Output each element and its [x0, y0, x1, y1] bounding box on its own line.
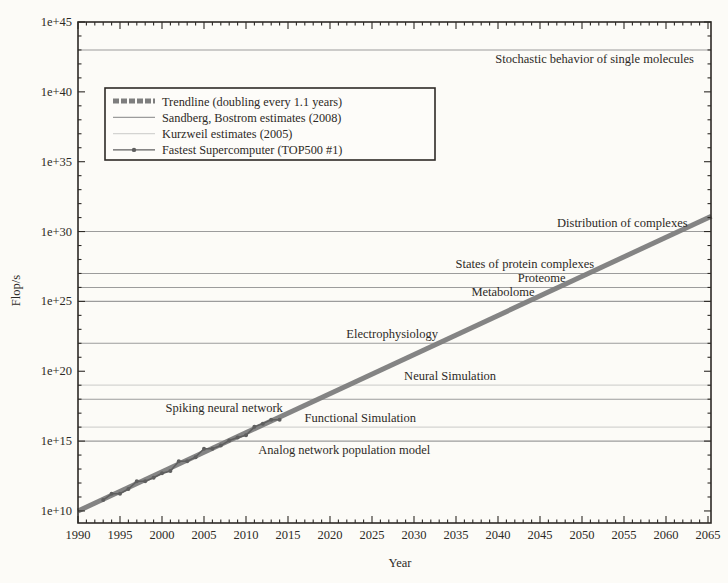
- annotation-states-of-protein-complexes: States of protein complexes: [456, 257, 595, 271]
- supercomputer-point: [143, 479, 147, 483]
- x-tick-label-2065: 2065: [696, 528, 721, 542]
- trendline: [78, 216, 711, 511]
- x-axis-title: Year: [355, 556, 445, 571]
- annotation-spiking-neural-network: Spiking neural network: [165, 401, 283, 415]
- annotation-neural-simulation: Neural Simulation: [404, 369, 497, 383]
- y-tick-labels: 1e+101e+151e+201e+251e+301e+351e+401e+45: [41, 15, 72, 518]
- supercomputer-point: [219, 444, 223, 448]
- x-tick-labels: 1990199520002005201020152020202520302035…: [66, 528, 721, 542]
- x-tick-label-2005: 2005: [192, 528, 217, 542]
- legend-label-sandberg-bostrom-estimates-2008: Sandberg, Bostrom estimates (2008): [162, 111, 341, 125]
- x-tick-label-2020: 2020: [318, 528, 343, 542]
- x-tick-label-2060: 2060: [654, 528, 679, 542]
- x-tick-label-1990: 1990: [66, 528, 91, 542]
- supercomputer-point: [252, 425, 256, 429]
- x-tick-label-2040: 2040: [486, 528, 511, 542]
- supercomputer-point: [227, 439, 231, 443]
- annotation-distribution-of-complexes: Distribution of complexes: [557, 216, 688, 230]
- x-tick-label-2015: 2015: [276, 528, 301, 542]
- x-tick-label-2055: 2055: [612, 528, 637, 542]
- y-tick-label-1e10: 1e+10: [41, 504, 72, 518]
- supercomputer-point: [185, 459, 189, 463]
- x-tick-label-1995: 1995: [108, 528, 133, 542]
- y-tick-label-1e35: 1e+35: [41, 155, 72, 169]
- supercomputer-point: [101, 498, 105, 502]
- x-tick-label-2035: 2035: [444, 528, 469, 542]
- annotation-electrophysiology: Electrophysiology: [346, 327, 438, 341]
- x-tick-label-2045: 2045: [528, 528, 553, 542]
- legend: Trendline (doubling every 1.1 years)Sand…: [105, 88, 435, 160]
- supercomputer-point: [135, 479, 139, 483]
- flops-projection-chart: 1990199520002005201020152020202520302035…: [0, 0, 728, 583]
- legend-label-fastest-supercomputer-top500-1: Fastest Supercomputer (TOP500 #1): [162, 143, 342, 157]
- y-tick-label-1e25: 1e+25: [41, 294, 72, 308]
- supercomputer-point: [261, 422, 265, 426]
- annotation-metabolome: Metabolome: [471, 285, 535, 299]
- legend-label-trendline-doubling-every-1-1-years: Trendline (doubling every 1.1 years): [162, 95, 342, 109]
- supercomputer-point: [110, 492, 114, 496]
- supercomputer-point: [168, 469, 172, 473]
- supercomputer-point: [244, 433, 248, 437]
- supercomputer-point: [118, 492, 122, 496]
- x-tick-label-2010: 2010: [234, 528, 259, 542]
- supercomputer-point: [152, 476, 156, 480]
- supercomputer-point: [126, 487, 130, 491]
- x-tick-label-2030: 2030: [402, 528, 427, 542]
- scanned-figure-page: 1990199520002005201020152020202520302035…: [0, 0, 728, 583]
- x-tick-label-2025: 2025: [360, 528, 385, 542]
- supercomputer-point: [236, 436, 240, 440]
- y-tick-label-1e45: 1e+45: [41, 15, 72, 29]
- x-tick-label-2000: 2000: [150, 528, 175, 542]
- y-tick-label-1e20: 1e+20: [41, 364, 72, 378]
- legend-label-kurzweil-estimates-2005: Kurzweil estimates (2005): [162, 127, 292, 141]
- y-axis-title: Flop/s: [9, 261, 24, 321]
- y-tick-label-1e40: 1e+40: [41, 85, 72, 99]
- supercomputer-point: [177, 459, 181, 463]
- supercomputer-point: [194, 455, 198, 459]
- annotation-proteome: Proteome: [518, 271, 566, 285]
- supercomputer-point: [210, 447, 214, 451]
- x-tick-label-2050: 2050: [570, 528, 595, 542]
- supercomputer-point: [278, 418, 282, 422]
- y-tick-label-1e15: 1e+15: [41, 434, 72, 448]
- y-tick-label-1e30: 1e+30: [41, 225, 72, 239]
- supercomputer-point: [160, 471, 164, 475]
- annotation-analog-network-population-model: Analog network population model: [258, 443, 430, 457]
- supercomputer-point: [269, 418, 273, 422]
- annotation-functional-simulation: Functional Simulation: [305, 411, 417, 425]
- legend-sample-marker-dot: [132, 148, 136, 152]
- annotation-stochastic-behavior-of-single-molecules: Stochastic behavior of single molecules: [495, 52, 694, 66]
- supercomputer-point: [202, 447, 206, 451]
